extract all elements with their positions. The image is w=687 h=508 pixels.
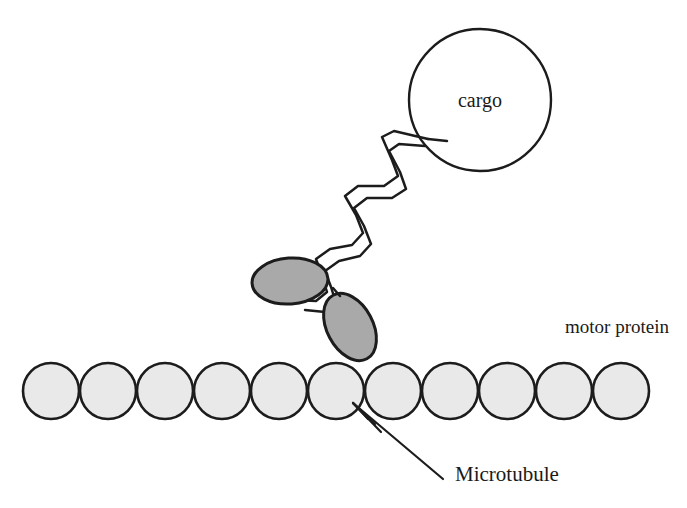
cargo-group: cargo	[409, 29, 551, 171]
microtubule-group	[23, 363, 649, 419]
microtubule-subunit	[194, 363, 250, 419]
microtubule-subunit	[308, 363, 364, 419]
microtubule-label: Microtubule	[455, 462, 559, 486]
microtubule-subunit	[422, 363, 478, 419]
microtubule-subunit	[137, 363, 193, 419]
diagram-svg: cargo motor protein Microtubule	[0, 0, 687, 508]
motor-protein-group: motor protein	[250, 255, 669, 369]
microtubule-subunit	[536, 363, 592, 419]
microtubule-subunit	[365, 363, 421, 419]
microtubule-subunit	[479, 363, 535, 419]
motor-protein-label: motor protein	[565, 316, 669, 337]
microtubule-subunit	[593, 363, 649, 419]
microtubule-subunit	[80, 363, 136, 419]
cargo-label: cargo	[458, 89, 502, 112]
microtubule-subunit	[251, 363, 307, 419]
motor-head-lower	[313, 284, 387, 369]
microtubule-subunit	[23, 363, 79, 419]
diagram-canvas: cargo motor protein Microtubule	[0, 0, 687, 508]
